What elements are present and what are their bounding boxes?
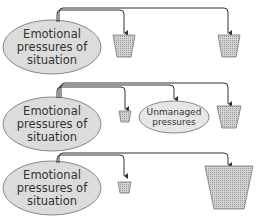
bucket-icon-small	[119, 111, 131, 122]
source-label: Emotional pressures of situation	[6, 105, 98, 144]
bucket-icon	[217, 106, 241, 128]
bucket-icon	[218, 35, 240, 57]
bucket-icon	[113, 35, 135, 57]
label-line: Unmanaged	[140, 107, 208, 117]
source-label: Emotional pressures of situation	[6, 28, 98, 67]
emotional-pressures-diagram: Emotional pressures of situation Emotion…	[0, 0, 258, 222]
bucket-icon-large	[205, 166, 253, 209]
label-line: pressures	[140, 117, 208, 127]
label-line: situation	[6, 131, 98, 144]
label-line: situation	[6, 195, 98, 208]
source-label: Emotional pressures of situation	[6, 169, 98, 208]
arrow-line	[61, 83, 228, 104]
bucket-icon-small	[118, 182, 131, 193]
unmanaged-pressures-label: Unmanaged pressures	[140, 107, 208, 127]
label-line: situation	[6, 54, 98, 67]
